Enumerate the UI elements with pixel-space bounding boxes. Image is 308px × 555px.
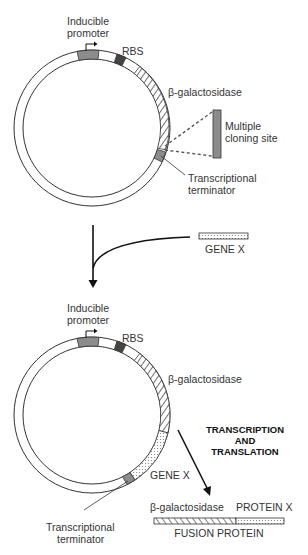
plasmid-inner-ring	[23, 59, 161, 197]
rbs-label: RBS	[122, 45, 144, 57]
promoter-arrowhead-icon	[94, 42, 98, 47]
promoter-block	[77, 337, 99, 347]
top-plasmid: Inducible promoter RBS β-galactosidase M…	[14, 15, 278, 206]
lacz-segment	[134, 354, 170, 434]
terminator-label: Transcriptional	[46, 521, 114, 533]
gene-x-label: GENE X	[150, 469, 190, 481]
lacz-label: β-galactosidase	[168, 373, 242, 385]
terminator-label-2: terminator	[188, 184, 236, 196]
terminator-label-2: terminator	[57, 533, 105, 545]
fusion-protein-x-part	[236, 518, 284, 524]
process-label-2: AND	[235, 435, 256, 446]
insertion-step: GENE X	[89, 225, 249, 288]
plasmid-inner-ring	[23, 346, 161, 484]
mcs-label: Multiple	[225, 120, 261, 132]
insert-curve	[93, 237, 190, 268]
terminator-pointer	[84, 481, 128, 510]
expression-step: TRANSCRIPTION AND TRANSLATION	[178, 424, 284, 496]
expression-arrowhead-icon	[203, 486, 211, 496]
process-label-3: TRANSLATION	[211, 446, 279, 457]
down-arrowhead-icon	[89, 280, 98, 288]
terminator-label: Transcriptional	[188, 172, 256, 184]
fusion-protein-label: FUSION PROTEIN	[174, 527, 263, 539]
promoter-label: Inducible	[67, 15, 109, 27]
promoter-label: Inducible	[67, 302, 109, 314]
protein-x-label: PROTEIN X	[236, 501, 293, 513]
mcs-bar	[213, 110, 221, 158]
terminator-pointer	[161, 156, 185, 175]
mcs-dash-bottom	[165, 150, 212, 156]
gene-x-label: GENE X	[205, 243, 245, 255]
rbs-label: RBS	[122, 332, 144, 344]
promoter-label-2: promoter	[67, 314, 110, 326]
gene-x-insert	[199, 233, 248, 239]
mcs-label-2: cloning site	[225, 132, 278, 144]
fusion-protein: β-galactosidase PROTEIN X FUSION PROTEIN	[150, 501, 293, 539]
lacz-segment	[134, 67, 169, 151]
mcs-dash-top	[165, 112, 212, 146]
promoter-arrowhead-icon	[94, 329, 98, 334]
promoter-label-2: promoter	[67, 27, 110, 39]
lacz-label: β-galactosidase	[168, 86, 242, 98]
fusion-lacz-part	[154, 518, 236, 524]
terminator-block	[154, 150, 166, 163]
process-label-1: TRANSCRIPTION	[206, 424, 284, 435]
product-lacz-label: β-galactosidase	[150, 501, 224, 513]
cloning-diagram: Inducible promoter RBS β-galactosidase M…	[0, 0, 308, 555]
promoter-block	[77, 50, 99, 60]
